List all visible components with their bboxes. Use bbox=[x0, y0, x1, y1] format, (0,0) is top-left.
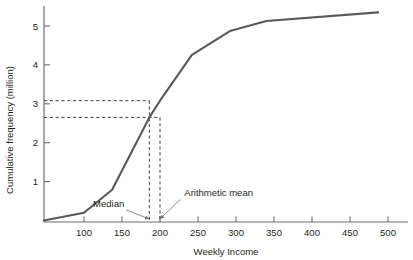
x-tick-label: 300 bbox=[228, 227, 244, 238]
y-axis-title: Cumulative frequency (million) bbox=[4, 66, 15, 194]
y-tick-label: 3 bbox=[33, 98, 38, 109]
x-tick-label: 100 bbox=[76, 227, 92, 238]
x-tick-label: 350 bbox=[266, 227, 282, 238]
x-axis-ticks: 100150200250300350400450500 bbox=[76, 217, 396, 239]
cumulative-frequency-chart: Cumulative frequency (million) Weekly In… bbox=[0, 0, 413, 260]
x-tick-label: 150 bbox=[114, 227, 130, 238]
y-tick-label: 2 bbox=[33, 137, 38, 148]
x-tick-label: 500 bbox=[380, 227, 396, 238]
y-tick-label: 4 bbox=[33, 59, 38, 70]
y-tick-label: 1 bbox=[33, 176, 38, 187]
y-tick-label: 5 bbox=[33, 21, 38, 32]
x-tick-label: 200 bbox=[152, 227, 168, 238]
chart-annotations: MedianArithmetic mean bbox=[93, 187, 253, 219]
annotation-arrowhead-median bbox=[145, 216, 150, 219]
annotation-leader-arithmetic-mean bbox=[160, 199, 180, 219]
annotation-label-median: Median bbox=[93, 198, 124, 209]
y-axis-ticks: 12345 bbox=[33, 21, 50, 188]
annotation-label-arithmetic-mean: Arithmetic mean bbox=[184, 187, 253, 198]
x-tick-label: 400 bbox=[304, 227, 320, 238]
x-tick-label: 450 bbox=[342, 227, 358, 238]
chart-canvas: Cumulative frequency (million) Weekly In… bbox=[0, 0, 413, 260]
x-tick-label: 250 bbox=[190, 227, 206, 238]
x-axis-title: Weekly Income bbox=[194, 246, 259, 257]
